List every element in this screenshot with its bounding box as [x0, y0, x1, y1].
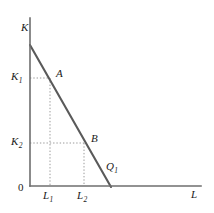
origin-label: 0 [18, 182, 24, 193]
y-tick-label-k1: K1 [11, 71, 22, 82]
point-label-b: B [91, 133, 98, 144]
y-tick-k2-sub: 2 [19, 141, 23, 150]
x-tick-label-l1: L1 [43, 190, 53, 201]
isoquant-curve-q1 [30, 45, 111, 187]
curve-label-q1-text: Q [106, 160, 114, 172]
isoquant-figure: K L 0 K1 K2 L1 L2 A B Q1 [0, 0, 214, 213]
x-tick-label-l2: L2 [77, 190, 87, 201]
x-axis-label: L [191, 189, 197, 200]
y-tick-k2-text: K [11, 135, 18, 147]
x-tick-l1-sub: 1 [49, 195, 53, 204]
curve-label-q1: Q1 [106, 161, 118, 172]
figure-canvas [0, 0, 214, 213]
y-tick-k1-text: K [11, 70, 18, 82]
curve-label-q1-sub: 1 [114, 166, 118, 175]
y-axis-label: K [21, 22, 28, 33]
y-tick-label-k2: K2 [11, 136, 22, 147]
point-label-a: A [56, 68, 63, 79]
y-tick-k1-sub: 1 [19, 76, 23, 85]
x-tick-l2-sub: 2 [83, 195, 87, 204]
